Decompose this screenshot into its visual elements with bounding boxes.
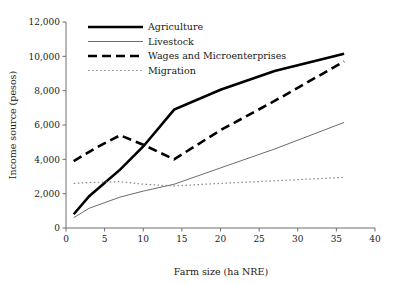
y-tick-label: 0 — [54, 223, 60, 233]
y-tick-label: 4,000 — [34, 155, 60, 165]
y-tick-label: 6,000 — [34, 120, 60, 130]
legend-label-livestock: Livestock — [148, 36, 194, 47]
y-tick-label: 8,000 — [34, 86, 60, 96]
series-line-agriculture — [74, 54, 344, 215]
x-tick-label: 35 — [331, 234, 343, 244]
y-tick-label: 12,000 — [29, 17, 61, 27]
x-axis-title: Farm size (ha NRE) — [174, 266, 268, 277]
legend-label-agriculture: Agriculture — [147, 21, 203, 32]
series-line-migration — [74, 177, 344, 186]
chart-canvas: 02,0004,0006,0008,00010,00012,000 051015… — [0, 0, 401, 284]
x-axis: 0510152025303540 — [63, 228, 381, 244]
legend-label-migration: Migration — [148, 65, 196, 76]
plot-area: 02,0004,0006,0008,00010,00012,000 051015… — [7, 17, 381, 277]
x-tick-label: 20 — [215, 234, 227, 244]
x-tick-label: 15 — [176, 234, 188, 244]
y-tick-label: 2,000 — [34, 189, 60, 199]
x-tick-label: 5 — [102, 234, 108, 244]
data-series-group — [74, 54, 344, 218]
x-tick-label: 10 — [138, 234, 150, 244]
y-axis-title: Income source (pesos) — [7, 71, 18, 179]
x-tick-label: 0 — [63, 234, 69, 244]
x-tick-label: 40 — [369, 234, 381, 244]
y-axis: 02,0004,0006,0008,00010,00012,000 — [29, 17, 67, 233]
series-line-livestock — [74, 122, 344, 217]
series-line-wages-and-microenterprises — [74, 61, 344, 161]
chart-legend: AgricultureLivestockWages and Microenter… — [88, 21, 286, 76]
x-tick-label: 25 — [253, 234, 265, 244]
legend-label-wages-and-microenterprises: Wages and Microenterprises — [148, 50, 286, 61]
income-by-farm-size-chart: 02,0004,0006,0008,00010,00012,000 051015… — [0, 0, 401, 284]
x-tick-label: 30 — [292, 234, 304, 244]
y-tick-label: 10,000 — [29, 52, 61, 62]
